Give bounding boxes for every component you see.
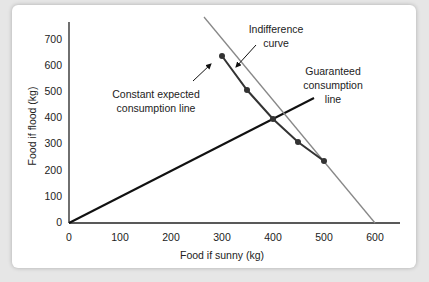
x-tick: 200 xyxy=(162,231,180,243)
y-tick-labels: 0 100 200 300 400 500 600 700 xyxy=(44,33,62,228)
y-axis-label: Food if flood (kg) xyxy=(26,87,38,166)
arrow-indifference xyxy=(236,45,256,67)
x-tick: 0 xyxy=(66,231,72,243)
annotation-guaranteed: line xyxy=(325,93,342,105)
x-tick: 600 xyxy=(366,231,384,243)
x-tick: 500 xyxy=(315,231,333,243)
constant-expected-line xyxy=(204,17,375,223)
y-tick: 700 xyxy=(44,33,62,45)
annotation-indifference: curve xyxy=(263,37,289,49)
annotations: Indifference curve Constant expected con… xyxy=(112,23,363,114)
y-tick: 600 xyxy=(44,59,62,71)
annotation-constant: Constant expected xyxy=(112,88,200,100)
annotation-indifference: Indifference xyxy=(249,23,304,35)
y-tick: 300 xyxy=(44,137,62,149)
y-tick: 400 xyxy=(44,111,62,123)
y-tick: 0 xyxy=(56,216,62,228)
y-tick: 100 xyxy=(44,190,62,202)
annotation-guaranteed: Guaranteed xyxy=(305,65,361,77)
x-tick: 400 xyxy=(264,231,282,243)
annotation-constant: consumption line xyxy=(117,102,196,114)
annotation-guaranteed: consumption xyxy=(303,79,363,91)
x-tick-labels: 0 100 200 300 400 500 600 xyxy=(66,231,384,243)
arrow-constant xyxy=(193,64,211,81)
y-tick: 500 xyxy=(44,85,62,97)
x-tick: 100 xyxy=(111,231,129,243)
x-tick: 300 xyxy=(213,231,231,243)
x-axis-label: Food if sunny (kg) xyxy=(180,249,264,261)
chart: 0 100 200 300 400 500 600 700 0 100 200 … xyxy=(0,0,429,282)
guaranteed-consumption-line xyxy=(69,98,314,223)
y-tick: 200 xyxy=(44,164,62,176)
